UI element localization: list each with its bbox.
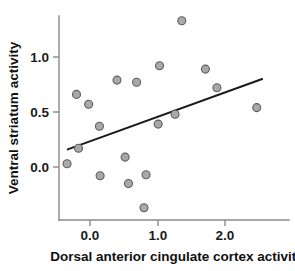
data-point xyxy=(85,100,93,108)
y-tick-label-1.0: 1.0 xyxy=(30,50,49,65)
data-point xyxy=(96,172,104,180)
data-point xyxy=(113,76,121,84)
data-point xyxy=(156,62,164,70)
data-point xyxy=(201,65,209,73)
data-point xyxy=(121,153,129,161)
y-axis-title: Ventral striatum activity xyxy=(6,41,21,194)
y-tick-label-0.5: 0.5 xyxy=(30,105,49,120)
regression-trend-line xyxy=(68,79,262,149)
x-axis-title: Dorsal anterior cingulate cortex activit… xyxy=(50,249,295,264)
scatter-plot-figure: 1.0 0.5 0.0 0.0 1.0 2.0 Dorsal anterior … xyxy=(0,0,295,271)
x-tick-label-2.0: 2.0 xyxy=(216,228,235,243)
data-point xyxy=(171,110,179,118)
plot-canvas: 1.0 0.5 0.0 0.0 1.0 2.0 Dorsal anterior … xyxy=(0,0,295,271)
data-point xyxy=(178,17,186,25)
data-point xyxy=(154,120,162,128)
data-point xyxy=(95,122,103,130)
data-point xyxy=(140,204,148,212)
data-point xyxy=(253,104,261,112)
data-point xyxy=(73,90,81,98)
data-point xyxy=(75,144,83,152)
x-tick-label-0.0: 0.0 xyxy=(81,228,100,243)
x-tick-label-1.0: 1.0 xyxy=(149,228,168,243)
data-point xyxy=(124,180,132,188)
data-point xyxy=(133,78,141,86)
data-point xyxy=(213,84,221,92)
y-tick-label-0.0: 0.0 xyxy=(30,160,49,175)
data-point xyxy=(63,160,71,168)
data-points-group xyxy=(63,17,261,212)
data-point xyxy=(142,171,150,179)
